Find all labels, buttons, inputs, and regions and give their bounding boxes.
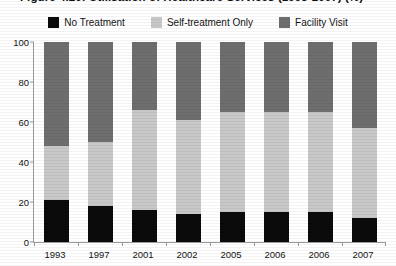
x-axis-tick-mark (385, 242, 386, 246)
legend-item-self-treatment: Self-treatment Only (151, 17, 253, 28)
bar-segment[interactable] (44, 200, 69, 242)
bar-segment[interactable] (176, 42, 201, 120)
stacked-bar[interactable] (44, 42, 69, 242)
x-axis-tick-label: 2005 (209, 248, 253, 262)
legend-swatch-self-treatment-icon (151, 17, 162, 28)
y-axis-tick-label: 20 (18, 197, 29, 208)
stacked-bar[interactable] (308, 42, 333, 242)
page-title: Figure 4.20: Utilisation of Healthcare S… (20, 0, 396, 4)
stacked-bar[interactable] (176, 42, 201, 242)
y-axis-tick-label: 80 (18, 77, 29, 88)
y-axis-tick-label: 60 (18, 117, 29, 128)
legend-swatch-facility-visit-icon (279, 17, 290, 28)
x-axis-tick-label: 2007 (341, 248, 385, 262)
bar-segment[interactable] (308, 212, 333, 242)
x-axis-tick-mark (298, 242, 299, 246)
bar-group (210, 42, 254, 242)
stacked-bar[interactable] (352, 42, 377, 242)
stacked-bar[interactable] (264, 42, 289, 242)
x-axis-tick-mark (254, 242, 255, 246)
x-axis-tick-label: 2001 (121, 248, 165, 262)
bar-segment[interactable] (220, 212, 245, 242)
stacked-bar[interactable] (132, 42, 157, 242)
x-axis: 19931997200120022005200620062007 (33, 248, 385, 262)
bar-group (78, 42, 122, 242)
x-axis-tick-mark (166, 242, 167, 246)
legend-item-facility-visit: Facility Visit (279, 17, 348, 28)
y-axis-tick-label: 0 (24, 237, 29, 248)
bar-group (122, 42, 166, 242)
bar-segment[interactable] (44, 146, 69, 200)
bar-group (166, 42, 210, 242)
legend-label-no-treatment: No Treatment (64, 17, 125, 28)
bar-segment[interactable] (44, 42, 69, 146)
x-axis-tick-mark (78, 242, 79, 246)
bar-segment[interactable] (88, 206, 113, 242)
bar-segment[interactable] (220, 42, 245, 112)
bar-group (342, 42, 386, 242)
legend-item-no-treatment: No Treatment (48, 17, 125, 28)
stacked-bar[interactable] (88, 42, 113, 242)
legend-swatch-no-treatment-icon (48, 17, 59, 28)
bar-segment[interactable] (352, 218, 377, 242)
bar-group (298, 42, 342, 242)
bar-group (254, 42, 298, 242)
legend-label-facility-visit: Facility Visit (295, 17, 348, 28)
x-axis-tick-mark (122, 242, 123, 246)
x-axis-tick-mark (210, 242, 211, 246)
bar-segment[interactable] (220, 112, 245, 212)
bar-segment[interactable] (132, 42, 157, 110)
x-axis-tick-label: 2002 (165, 248, 209, 262)
x-axis-tick-label: 1993 (33, 248, 77, 262)
chart-plot-area: 020406080100 (33, 42, 386, 243)
bar-series-container (34, 42, 386, 242)
y-axis-tick-label: 40 (18, 157, 29, 168)
x-axis-tick-mark (34, 242, 35, 246)
legend-label-self-treatment: Self-treatment Only (167, 17, 253, 28)
bar-group (34, 42, 78, 242)
x-axis-tick-label: 1997 (77, 248, 121, 262)
x-axis-tick-mark (342, 242, 343, 246)
bar-segment[interactable] (264, 112, 289, 212)
bar-segment[interactable] (176, 214, 201, 242)
bar-segment[interactable] (264, 212, 289, 242)
bar-segment[interactable] (88, 42, 113, 142)
bar-segment[interactable] (308, 112, 333, 212)
bar-segment[interactable] (308, 42, 333, 112)
stacked-bar[interactable] (220, 42, 245, 242)
bar-segment[interactable] (132, 110, 157, 210)
bar-segment[interactable] (352, 42, 377, 128)
bar-segment[interactable] (176, 120, 201, 214)
bar-segment[interactable] (352, 128, 377, 218)
bar-segment[interactable] (264, 42, 289, 112)
chart-legend: No Treatment Self-treatment Only Facilit… (0, 14, 396, 30)
x-axis-tick-label: 2006 (253, 248, 297, 262)
x-axis-tick-label: 2006 (297, 248, 341, 262)
y-axis-tick-label: 100 (13, 37, 29, 48)
bar-segment[interactable] (88, 142, 113, 206)
bar-segment[interactable] (132, 210, 157, 242)
